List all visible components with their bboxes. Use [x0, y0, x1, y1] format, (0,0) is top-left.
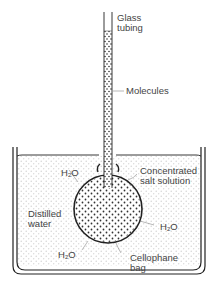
label-molecules: Molecules — [126, 86, 169, 96]
label-h2o-right: H2O — [160, 222, 178, 234]
label-h2o-top-left: H2O — [61, 168, 79, 180]
label-distilled-water: Distilled water — [28, 209, 61, 229]
osmosis-diagram — [0, 0, 217, 282]
label-concentrated-salt-solution: Concentrated salt solution — [140, 166, 197, 186]
label-glass-tubing: Glass tubing — [117, 13, 143, 33]
label-cellophane-bag: Cellophane bag — [130, 253, 178, 273]
label-h2o-bottom-left: H2O — [58, 250, 76, 262]
